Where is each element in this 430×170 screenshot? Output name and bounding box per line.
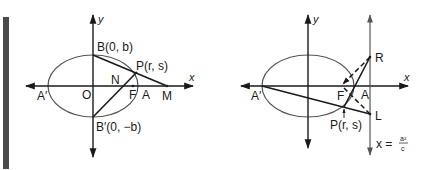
- focus-dot-left: [132, 85, 135, 88]
- r-dot: [369, 56, 372, 59]
- ellipse-diagrams: y x B(0, b) P(r, s) N O A′ F A M B′(0, −…: [0, 0, 430, 170]
- label-P-left: P(r, s): [136, 59, 168, 73]
- label-N: N: [111, 73, 120, 87]
- label-Aprime-right: A′: [251, 89, 262, 103]
- label-F-right: F: [337, 89, 344, 103]
- label-B: B(0, b): [97, 40, 133, 54]
- label-Bprime: B′(0, −b): [96, 120, 141, 134]
- right-diagram: y x R L A′ F A P(r, s) x = a² c: [241, 13, 410, 155]
- label-Aprime-left: A′: [37, 89, 48, 103]
- directrix-numerator: a²: [400, 135, 407, 142]
- m-dot: [166, 85, 169, 88]
- left-diagram: y x B(0, b) P(r, s) N O A′ F A M B′(0, −…: [26, 13, 195, 157]
- label-A-left: A: [142, 88, 150, 102]
- directrix-denominator: c: [401, 145, 405, 152]
- l-dot: [369, 113, 372, 116]
- label-A-right: A: [361, 88, 369, 102]
- label-L: L: [375, 109, 382, 123]
- label-P-right: P(r, s): [330, 118, 362, 132]
- label-O: O: [82, 88, 91, 102]
- label-R: R: [375, 51, 384, 65]
- directrix-equation: x = a² c: [376, 135, 408, 152]
- x-label-right: x: [403, 71, 410, 83]
- label-M: M: [162, 89, 172, 103]
- directrix-lhs: x =: [376, 137, 392, 151]
- y-label-right: y: [312, 13, 320, 25]
- y-label-left: y: [97, 13, 105, 25]
- dashed-RF: [343, 57, 370, 84]
- x-label-left: x: [188, 71, 195, 83]
- label-F-left: F: [129, 88, 136, 102]
